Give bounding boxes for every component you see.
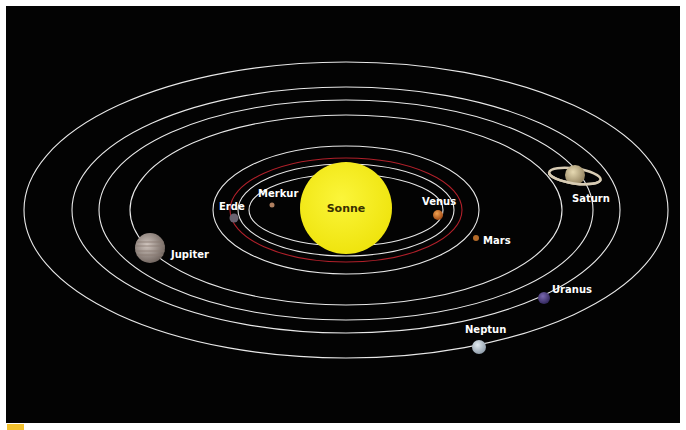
planet-label-venus: Venus xyxy=(422,196,456,207)
mars-body xyxy=(473,235,479,241)
planet-uranus: Uranus xyxy=(538,284,592,304)
planet-erde: Erde xyxy=(219,201,245,223)
planet-label-uranus: Uranus xyxy=(552,284,592,295)
planet-jupiter: Jupiter xyxy=(135,233,209,263)
planet-neptun: Neptun xyxy=(465,324,506,354)
uranus-body xyxy=(538,292,550,304)
planet-label-merkur: Merkur xyxy=(258,188,298,199)
sun: Sonne xyxy=(300,162,392,254)
neptun-body xyxy=(472,340,486,354)
planet-mars: Mars xyxy=(473,235,511,246)
jupiter-body xyxy=(135,233,165,263)
merkur-body xyxy=(270,203,275,208)
solar-system-diagram: Sonne MerkurErdeVenusMarsJupiterSaturnUr… xyxy=(0,0,686,430)
venus-body xyxy=(433,210,443,220)
sun-label: Sonne xyxy=(327,202,366,215)
planet-saturn: Saturn xyxy=(548,165,610,204)
planet-venus: Venus xyxy=(422,196,456,220)
planet-label-mars: Mars xyxy=(483,235,511,246)
erde-body xyxy=(230,214,239,223)
planet-merkur: Merkur xyxy=(258,188,298,208)
planet-label-neptun: Neptun xyxy=(465,324,506,335)
planet-label-erde: Erde xyxy=(219,201,245,212)
planet-label-jupiter: Jupiter xyxy=(170,249,209,260)
planet-label-saturn: Saturn xyxy=(572,193,610,204)
